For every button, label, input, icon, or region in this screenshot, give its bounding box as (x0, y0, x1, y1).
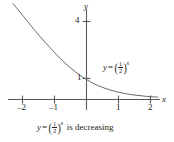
caption-tail: is decreasing (67, 122, 114, 132)
caption-fraction: 12 (52, 121, 56, 136)
exponential-curve (13, 4, 158, 98)
curve-equation-label: y=(12)x (103, 61, 130, 76)
caption-numerator: 1 (52, 121, 56, 128)
curve-label-paren-open: ( (115, 61, 118, 74)
curve-label-denominator: 2 (118, 67, 122, 75)
caption-paren-open: ( (49, 121, 52, 134)
y-tick-label-4: 4 (75, 16, 80, 25)
caption-equals: = (41, 122, 48, 132)
curve-label-numerator: 1 (118, 61, 122, 68)
y-axis-label: y (84, 2, 88, 11)
x-tick-label--2: –2 (17, 103, 26, 112)
y-tick-label-1: 1 (77, 73, 82, 82)
curve-label-fraction: 12 (118, 61, 122, 76)
caption-denominator: 2 (52, 127, 56, 135)
exponential-decay-figure: y x –2 –1 1 2 4 1 y=(12)x y=(12)xis decr… (0, 0, 174, 142)
x-tick-label--1: –1 (49, 103, 58, 112)
x-tick-label-2: 2 (148, 103, 153, 112)
curve-label-exponent: x (127, 60, 130, 66)
curve-label-equals: = (107, 62, 114, 72)
x-axis-label: x (162, 95, 166, 104)
x-tick-label-1: 1 (116, 103, 121, 112)
figure-caption: y=(12)xis decreasing (37, 121, 113, 136)
caption-exponent: x (61, 120, 64, 126)
